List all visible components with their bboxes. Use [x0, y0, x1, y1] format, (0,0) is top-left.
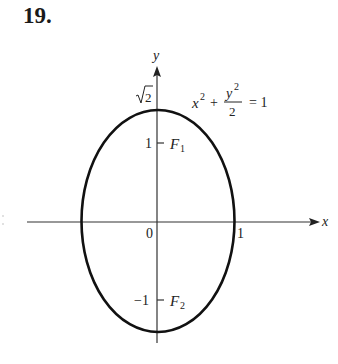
svg-text:2: 2	[145, 90, 152, 105]
focus-f1-label: F 1	[169, 136, 185, 154]
equation-label: x 2 + y 2 2 = 1	[191, 81, 267, 119]
svg-text:y: y	[224, 86, 233, 101]
svg-text:F: F	[169, 136, 180, 152]
margin-mark	[2, 223, 4, 225]
focus-f2-label: F 2	[169, 293, 185, 311]
svg-text:2: 2	[180, 300, 185, 311]
sqrt2-label: 2	[136, 86, 153, 105]
tick-label-y-neg-one: −1	[134, 293, 149, 308]
margin-mark	[2, 215, 4, 217]
tick-label-y-one: 1	[145, 136, 152, 151]
svg-text:x: x	[191, 95, 199, 111]
svg-text:2: 2	[200, 91, 205, 102]
y-axis-label: y	[151, 48, 160, 63]
x-axis-label: x	[321, 214, 329, 229]
svg-text:1: 1	[180, 143, 185, 154]
ellipse-diagram: y x 2 1 −1 0 1 F 1 F 2 x 2 + y 2 2 = 1	[0, 0, 338, 364]
svg-text:F: F	[169, 293, 180, 309]
svg-text:2: 2	[229, 104, 236, 119]
origin-label: 0	[146, 226, 153, 241]
tick-label-x-one: 1	[237, 226, 244, 241]
svg-text:= 1: = 1	[249, 95, 267, 110]
svg-text:2: 2	[234, 81, 239, 92]
svg-text:+: +	[210, 95, 218, 110]
